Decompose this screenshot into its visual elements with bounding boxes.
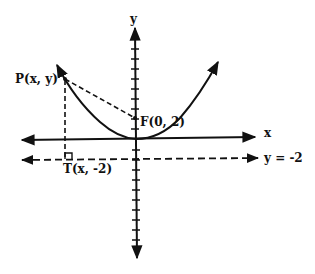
point-p <box>63 77 67 81</box>
foot-t-label: T(x, -2) <box>63 163 112 175</box>
focus-point <box>133 116 137 120</box>
x-axis-label: x <box>264 127 271 139</box>
y-axis-label: y <box>130 13 137 25</box>
focus-label: F(0, 2) <box>140 116 185 128</box>
directrix-label: y = -2 <box>264 152 303 164</box>
segment-pf <box>65 79 135 118</box>
parabola-curve <box>57 62 218 139</box>
right-angle-mark <box>65 153 72 159</box>
y-axis <box>135 28 137 258</box>
parabola-diagram: y x P(x, y) F(0, 2) T(x, -2) y = -2 <box>0 0 315 274</box>
point-p-label: P(x, y) <box>15 73 58 85</box>
